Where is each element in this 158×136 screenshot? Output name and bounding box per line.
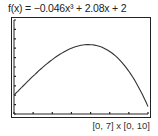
function-title: f(x) = −0.046x³ + 2.08x + 2 bbox=[8, 2, 126, 14]
window-range-label: [0, 7] x [0, 10] bbox=[92, 120, 150, 131]
graph-window bbox=[11, 17, 151, 118]
outer-frame bbox=[12, 18, 151, 118]
axis-ticks bbox=[14, 20, 148, 114]
function-curve bbox=[14, 45, 148, 107]
